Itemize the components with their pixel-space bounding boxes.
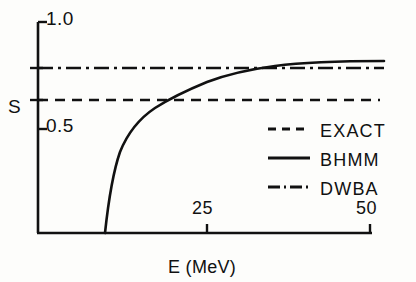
y-tick-label-0p5: 0.5 — [46, 116, 74, 135]
legend-entry-bhmm: BHMM — [320, 150, 380, 171]
series-curve-bhmm — [105, 61, 384, 233]
legend-entry-dwba: DWBA — [320, 179, 379, 200]
x-axis-label: E (MeV) — [168, 258, 236, 276]
y-tick-label-1p0: 1.0 — [46, 9, 74, 28]
x-tick-label-25: 25 — [192, 199, 213, 217]
x-tick-label-50: 50 — [356, 199, 377, 217]
y-axis-label: S — [8, 97, 21, 116]
figure-panel: S 1.0 0.5 25 50 E (MeV) EXACT BHMM DWBA — [0, 0, 416, 282]
legend-entry-exact: EXACT — [320, 121, 386, 142]
